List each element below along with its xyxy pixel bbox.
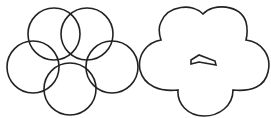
chevron-shape [191, 55, 216, 65]
cloud-outline [140, 7, 269, 116]
circle-4 [86, 41, 138, 93]
cloud-union-shape [140, 7, 269, 116]
overlapping-circles [7, 8, 138, 115]
circle-5 [44, 63, 96, 115]
diagram-canvas [0, 0, 271, 118]
circle-2 [61, 8, 113, 60]
